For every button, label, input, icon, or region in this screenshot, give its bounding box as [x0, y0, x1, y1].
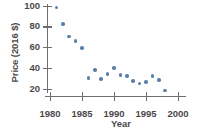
- data-point: [157, 78, 161, 82]
- x-tick-1985: [82, 92, 83, 101]
- data-point: [112, 66, 116, 70]
- data-point: [55, 6, 59, 10]
- y-tick-label-text: 60: [14, 42, 40, 52]
- y-tick-100: [43, 6, 52, 7]
- data-point: [80, 46, 84, 50]
- x-tick-2000: [178, 92, 179, 101]
- y-tick-label-text: 20: [14, 84, 40, 94]
- data-point: [61, 22, 65, 26]
- y-tick-60: [43, 47, 52, 48]
- data-point: [74, 39, 78, 43]
- data-point: [119, 73, 123, 77]
- data-point: [87, 76, 91, 80]
- data-point: [93, 68, 97, 72]
- x-tick-1990: [114, 92, 115, 101]
- x-tick-1995: [146, 92, 147, 101]
- y-tick-80: [43, 26, 52, 27]
- y-tick-label-60: 60: [14, 42, 40, 52]
- data-point: [163, 89, 167, 93]
- y-tick-20: [43, 89, 52, 90]
- y-tick-label-100: 100: [14, 1, 40, 11]
- y-axis-line: [47, 4, 48, 93]
- x-tick-1980: [50, 92, 51, 101]
- y-tick-label-80: 80: [14, 21, 40, 31]
- data-point: [138, 82, 142, 86]
- data-point: [99, 77, 103, 81]
- data-point: [125, 74, 129, 78]
- y-tick-label-40: 40: [14, 63, 40, 73]
- x-axis-line: [45, 96, 186, 97]
- y-tick-label-20: 20: [14, 84, 40, 94]
- y-tick-40: [43, 68, 52, 69]
- data-point: [151, 74, 155, 78]
- data-point: [131, 79, 135, 83]
- y-tick-label-text: 40: [14, 63, 40, 73]
- y-tick-label-text: 100: [14, 1, 40, 11]
- scatter-plot: Price (2016 $) 20406080100 1980198519901…: [0, 0, 200, 136]
- y-tick-label-text: 80: [14, 21, 40, 31]
- data-point: [106, 72, 110, 76]
- x-axis-label: Year: [42, 118, 200, 129]
- data-point: [144, 80, 148, 84]
- data-point: [67, 35, 71, 39]
